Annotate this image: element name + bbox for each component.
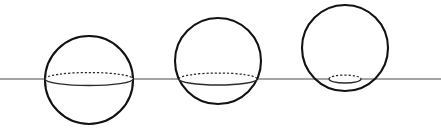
sphere-2-outline (175, 18, 261, 104)
sphere-2-group (175, 18, 261, 104)
sphere-1-group (45, 36, 133, 124)
sphere-plane-diagram (0, 0, 441, 133)
sphere-3-group (302, 5, 388, 91)
figure-container (0, 0, 441, 133)
